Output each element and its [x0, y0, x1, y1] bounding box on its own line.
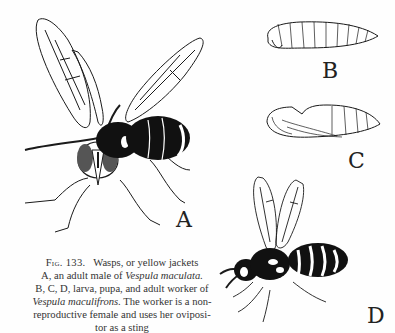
wasp-adult-male-illustration [10, 10, 215, 235]
caption-line-3: Vespula maculifrons. The worker is a non… [22, 295, 222, 308]
wasp-worker-illustration [218, 172, 358, 324]
panel-label-b: B [322, 60, 338, 82]
figure-title: Wasps, or yellow jackets [93, 257, 198, 268]
caption-line-5: tor as a sting [22, 321, 222, 333]
caption-line-4: reproductive female and uses her oviposi… [22, 308, 222, 321]
species-name: Vespula maculata. [125, 270, 203, 281]
panel-label-a: A [176, 209, 192, 231]
panel-label-d: D [367, 305, 385, 327]
caption-title-line: Fig. 133. Wasps, or yellow jackets [22, 256, 222, 269]
larva-illustration [260, 18, 385, 58]
species-name: Vespula maculifrons. [32, 296, 120, 307]
pupa-illustration [262, 102, 384, 142]
figure-caption: Fig. 133. Wasps, or yellow jackets A, an… [22, 256, 222, 333]
caption-line-1: A, an adult male of Vespula maculata. [22, 269, 222, 282]
panel-label-c: C [348, 150, 365, 172]
figure-number: Fig. 133. [46, 257, 86, 268]
caption-line-2: B, C, D, larva, pupa, and adult worker o… [22, 282, 222, 295]
figure-page: A B C [0, 0, 395, 333]
